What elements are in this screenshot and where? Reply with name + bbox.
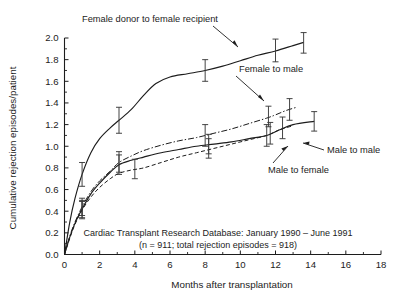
y-axis-title: Cumulative rejection episodes/patient bbox=[7, 66, 18, 229]
error-bar bbox=[287, 99, 293, 121]
x-axis-title: Months after transplantation bbox=[171, 279, 292, 290]
error-bar bbox=[206, 139, 212, 158]
x-tick-label: 4 bbox=[132, 259, 138, 270]
leader-male-to-female bbox=[273, 146, 288, 163]
y-tick-label: 0.4 bbox=[45, 206, 59, 217]
x-tick-label: 18 bbox=[376, 259, 387, 270]
y-tick-label: 0.8 bbox=[45, 162, 58, 173]
x-axis-ticks: 024681012141618 bbox=[62, 251, 387, 270]
caption-line-1: Cardiac Transplant Research Database: Ja… bbox=[83, 228, 352, 238]
x-tick-label: 10 bbox=[235, 259, 246, 270]
male-to-female-label: Male to female bbox=[268, 165, 329, 175]
x-tick-label: 8 bbox=[202, 259, 207, 270]
y-tick-label: 0.6 bbox=[45, 184, 58, 195]
female-to-female-label: Female donor to female recipient bbox=[82, 14, 218, 24]
error-bar bbox=[79, 162, 85, 186]
x-tick-label: 0 bbox=[62, 259, 67, 270]
arrowhead-female-to-male bbox=[258, 95, 264, 102]
x-tick-label: 14 bbox=[305, 259, 316, 270]
x-tick-label: 2 bbox=[97, 259, 102, 270]
y-tick-label: 1.4 bbox=[45, 97, 59, 108]
y-tick-label: 1.6 bbox=[45, 76, 58, 87]
figure-container: 024681012141618 0.00.20.40.60.81.01.21.4… bbox=[0, 0, 395, 307]
y-tick-label: 1.2 bbox=[45, 119, 58, 130]
x-tick-label: 12 bbox=[270, 259, 281, 270]
error-bar bbox=[116, 107, 122, 133]
y-tick-label: 0.0 bbox=[45, 249, 58, 260]
y-tick-label: 1.8 bbox=[45, 54, 58, 65]
y-tick-label: 1.0 bbox=[45, 141, 58, 152]
caption-line-2: (n = 911; total rejection episodes = 918… bbox=[139, 240, 297, 250]
male-to-male-label: Male to male bbox=[327, 145, 380, 155]
rejection-episodes-line-chart: 024681012141618 0.00.20.40.60.81.01.21.4… bbox=[0, 0, 395, 307]
x-tick-label: 16 bbox=[340, 259, 351, 270]
y-tick-label: 0.2 bbox=[45, 227, 58, 238]
leader-male-to-male bbox=[303, 143, 324, 150]
female-to-male-label: Female to male bbox=[239, 64, 303, 74]
y-tick-label: 2.0 bbox=[45, 32, 58, 43]
x-tick-label: 6 bbox=[167, 259, 172, 270]
